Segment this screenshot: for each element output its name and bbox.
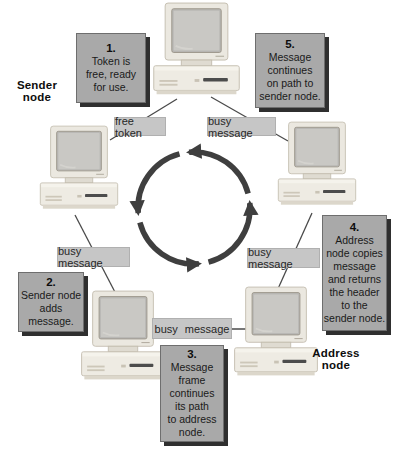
- link-label-busy-message-right: busy message: [247, 248, 320, 268]
- step-2-number: 2.: [46, 276, 56, 289]
- step-box-5: 5. Message continues on path to sender n…: [255, 33, 325, 108]
- link-label-free-token: free token: [114, 117, 166, 136]
- ring-arrows: [138, 152, 250, 264]
- ring-arc-left: [138, 154, 180, 213]
- step-2-text: Sender node adds message.: [21, 289, 81, 328]
- link-label-busy-message-bottom: busy message: [152, 318, 232, 339]
- ring-arc-bottom: [140, 223, 199, 265]
- computer-icon-bottom-right: [235, 287, 318, 375]
- link-label-busy-message-top: busy message: [207, 117, 276, 136]
- step-5-number: 5.: [285, 38, 295, 51]
- ring-arc-top: [189, 152, 248, 194]
- step-1-number: 1.: [106, 42, 116, 55]
- ring-arc-right: [209, 203, 251, 262]
- step-box-1: 1. Token is free, ready for use.: [76, 33, 146, 103]
- step-box-3: 3. Message frame continues its path to a…: [160, 345, 224, 442]
- step-4-text: Address node copies message and returns …: [324, 234, 385, 325]
- step-1-text: Token is free, ready for use.: [86, 55, 136, 94]
- step-box-4: 4. Address node copies message and retur…: [322, 215, 387, 331]
- computer-icon-left: [40, 126, 117, 209]
- computer-icon-right: [278, 122, 355, 205]
- step-4-number: 4.: [350, 221, 360, 234]
- link-label-busy-message-left: busy message: [57, 247, 130, 267]
- step-box-2: 2. Sender node adds message.: [18, 272, 84, 332]
- step-5-text: Message continues on path to sender node…: [259, 51, 320, 103]
- token-ring-diagram: 1. Token is free, ready for use. 5. Mess…: [0, 0, 401, 462]
- sender-node-label: Sender node: [8, 80, 66, 103]
- address-node-label: Address node: [306, 348, 366, 371]
- step-3-number: 3.: [187, 348, 197, 361]
- step-3-text: Message frame continues its path to addr…: [167, 361, 216, 439]
- computer-icon-top: [154, 3, 240, 94]
